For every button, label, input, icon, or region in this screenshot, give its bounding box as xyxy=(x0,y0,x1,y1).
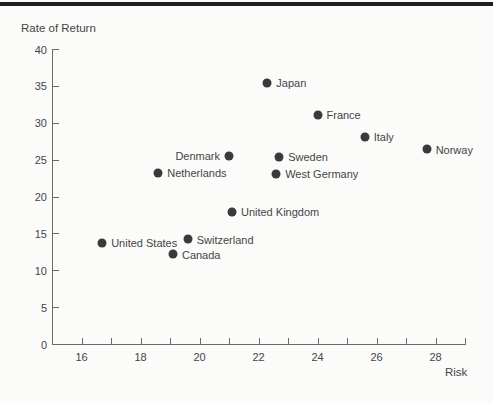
x-tick xyxy=(141,338,142,344)
y-tick-label: 20 xyxy=(14,192,47,203)
data-point-label-west-germany: West Germany xyxy=(285,169,358,180)
x-tick xyxy=(229,338,230,344)
page: Rate of Return 0510152025303540161820222… xyxy=(0,0,493,403)
x-tick-label: 28 xyxy=(421,352,451,363)
y-tick-label: 40 xyxy=(14,44,47,55)
x-tick-label: 18 xyxy=(126,352,156,363)
data-point-label-united-kingdom: United Kingdom xyxy=(241,207,319,218)
y-tick xyxy=(53,270,59,271)
y-tick xyxy=(53,344,59,345)
data-point-label-italy: Italy xyxy=(374,132,394,143)
x-tick xyxy=(318,338,319,344)
x-tick-label: 16 xyxy=(67,352,97,363)
y-tick xyxy=(53,307,59,308)
y-tick-label: 0 xyxy=(14,339,47,350)
data-point-label-switzerland: Switzerland xyxy=(197,234,254,245)
y-tick-label: 5 xyxy=(14,302,47,313)
data-point-norway xyxy=(422,145,431,154)
x-tick-label: 24 xyxy=(303,352,333,363)
data-point-united-states xyxy=(98,238,107,247)
scatter-chart: 051015202530354016182022242628JapanFranc… xyxy=(0,0,493,403)
data-point-japan xyxy=(263,78,272,87)
y-tick xyxy=(53,160,59,161)
data-point-denmark xyxy=(225,151,234,160)
y-tick xyxy=(53,49,59,50)
data-point-label-denmark: Denmark xyxy=(175,151,220,162)
y-tick-label: 15 xyxy=(14,228,47,239)
y-tick xyxy=(53,86,59,87)
data-point-france xyxy=(313,110,322,119)
y-tick xyxy=(53,233,59,234)
x-tick xyxy=(259,338,260,344)
data-point-label-norway: Norway xyxy=(436,144,473,155)
x-tick xyxy=(170,338,171,344)
data-point-label-sweden: Sweden xyxy=(288,152,328,163)
y-tick-label: 35 xyxy=(14,81,47,92)
x-tick xyxy=(406,338,407,344)
x-tick xyxy=(377,338,378,344)
x-tick xyxy=(288,338,289,344)
x-tick xyxy=(347,338,348,344)
x-tick xyxy=(111,338,112,344)
x-tick-label: 22 xyxy=(244,352,274,363)
y-tick-label: 10 xyxy=(14,265,47,276)
data-point-label-japan: Japan xyxy=(276,78,306,89)
data-point-label-netherlands: Netherlands xyxy=(167,168,226,179)
data-point-label-france: France xyxy=(327,110,361,121)
x-tick-label: 20 xyxy=(185,352,215,363)
data-point-netherlands xyxy=(154,168,163,177)
data-point-italy xyxy=(360,132,369,141)
x-tick xyxy=(82,338,83,344)
data-point-west-germany xyxy=(272,169,281,178)
data-point-label-canada: Canada xyxy=(182,249,221,260)
data-point-sweden xyxy=(275,152,284,161)
x-axis-line xyxy=(52,344,466,345)
x-tick xyxy=(436,338,437,344)
data-point-label-united-states: United States xyxy=(111,238,177,249)
y-tick xyxy=(53,123,59,124)
y-tick xyxy=(53,197,59,198)
y-tick-label: 25 xyxy=(14,155,47,166)
x-tick xyxy=(200,338,201,344)
x-axis-title: Risk xyxy=(445,366,467,378)
x-tick xyxy=(465,338,466,344)
data-point-canada xyxy=(168,250,177,259)
data-point-united-kingdom xyxy=(227,207,236,216)
x-tick-label: 26 xyxy=(362,352,392,363)
y-tick-label: 30 xyxy=(14,118,47,129)
data-point-switzerland xyxy=(183,235,192,244)
